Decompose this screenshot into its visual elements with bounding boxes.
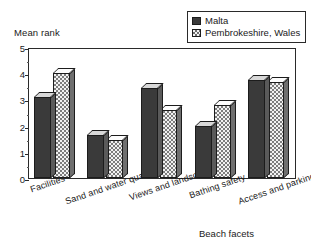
bar-side-face [158, 83, 163, 178]
y-tick-label: 5 [20, 44, 25, 54]
y-tick-label: 1 [20, 149, 25, 159]
y-axis-title: Mean rank [14, 27, 60, 38]
legend-label-malta: Malta [205, 15, 228, 27]
bar-side-face [123, 136, 128, 178]
y-tick-major [25, 180, 29, 181]
legend-label-pembrokeshire: Pembrokeshire, Wales [205, 27, 300, 39]
bar-malta [141, 88, 158, 178]
bar-front-face [34, 97, 51, 178]
bar-side-face [177, 105, 182, 178]
bar-malta [34, 97, 51, 178]
bar-malta [248, 80, 265, 178]
bar-front-face [195, 126, 212, 178]
y-tick-label: 0 [20, 175, 25, 185]
plot-area: 012345 [28, 48, 296, 179]
bar-side-face [212, 121, 217, 178]
bar-malta [195, 126, 212, 178]
solid-dark-swatch-icon [192, 17, 201, 25]
bar-malta [87, 135, 104, 178]
bars-layer [29, 49, 295, 178]
y-tick-label: 3 [20, 97, 25, 107]
chart-legend: Malta Pembrokeshire, Wales [187, 11, 306, 43]
checker-swatch-icon [192, 29, 201, 37]
y-tick-label: 2 [20, 123, 25, 133]
y-tick-label: 4 [20, 70, 25, 80]
bar-front-face [87, 135, 104, 178]
bar-front-face [248, 80, 265, 178]
bar-side-face [265, 75, 270, 178]
bar-side-face [284, 78, 289, 178]
bar-chart: Mean rank Malta Pembrokeshire, Wales 012… [0, 0, 311, 247]
bar-side-face [70, 69, 75, 178]
bar-side-face [104, 130, 109, 178]
legend-item-malta: Malta [192, 15, 300, 27]
legend-item-pembrokeshire: Pembrokeshire, Wales [192, 27, 300, 39]
bar-side-face [51, 92, 56, 178]
x-axis-title: Beach facets [199, 228, 254, 239]
bar-side-face [231, 100, 236, 178]
bar-front-face [141, 88, 158, 178]
